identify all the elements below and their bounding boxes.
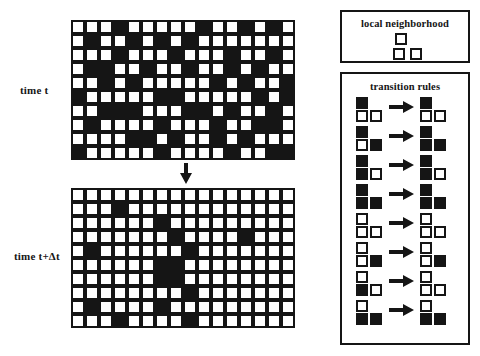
lattice-cell [169,202,183,216]
lattice-cell [127,188,141,202]
lattice-cell [141,202,155,216]
lattice-cell [183,146,197,160]
lattice-cell [155,188,169,202]
rule-cell-br [370,284,382,296]
lattice-cell [267,188,281,202]
lattice-cell [127,202,141,216]
lattice-cell [197,118,211,132]
lattice-cell [85,244,99,258]
lattice-cell [99,314,113,328]
lattice-cell [253,76,267,90]
lattice-cell [113,300,127,314]
lattice-cell [183,62,197,76]
lattice-cell [267,34,281,48]
lattice-cell [281,132,295,146]
lattice-cell [169,286,183,300]
lattice-cell [267,146,281,160]
lattice-cell [71,202,85,216]
lattice-cell [113,90,127,104]
lattice-cell [253,216,267,230]
lattice-cell [113,188,127,202]
lattice-cell [281,300,295,314]
lattice-cell [183,216,197,230]
lattice-cell [71,300,85,314]
lattice-cell [225,244,239,258]
lattice-cell [71,76,85,90]
rule-triad-rhs [420,184,450,210]
rule-triad-rhs [420,155,450,181]
lattice-cell [211,300,225,314]
lattice-cell [197,104,211,118]
lattice-cell [127,230,141,244]
lattice-cell [141,132,155,146]
rule-cell-bl [356,255,368,267]
transition-rule-row [342,241,472,270]
rule-cell-bl [356,168,368,180]
transition-rule-row [342,154,472,183]
lattice-cell [99,118,113,132]
lattice-cell [141,62,155,76]
lattice-cell [281,230,295,244]
lattice-cell [253,20,267,34]
rule-cell-top [420,97,432,109]
lattice-cell [267,20,281,34]
lattice-cell [155,300,169,314]
lattice-cell [99,146,113,160]
rule-cell-top [420,155,432,167]
right-arrow-icon [389,304,415,316]
lattice-cell [211,48,225,62]
lattice-cell [85,188,99,202]
rule-cell-bl [420,255,432,267]
rule-cell-top [420,300,432,312]
neighborhood-cell-top [395,33,407,45]
lattice-cell [281,104,295,118]
lattice-cell [225,76,239,90]
lattice-cell [211,62,225,76]
rule-triad-lhs [356,300,386,326]
lattice-cell [267,230,281,244]
rule-cell-bl [356,313,368,325]
lattice-cell [169,314,183,328]
lattice-cell [85,272,99,286]
lattice-cell [197,202,211,216]
lattice-cell [85,104,99,118]
lattice-cell [71,146,85,160]
lattice-cell [267,244,281,258]
lattice-cell [225,62,239,76]
lattice-cell [225,188,239,202]
lattice-cell [253,90,267,104]
right-arrow-icon [389,159,415,171]
rule-triad-rhs [420,213,450,239]
rule-cell-bl [420,110,432,122]
lattice-cell [183,314,197,328]
lattice-cell [253,48,267,62]
lattice-cell [211,216,225,230]
lattice-cell [141,48,155,62]
lattice-cell [169,216,183,230]
right-arrow-icon [389,101,415,113]
lattice-cell [127,90,141,104]
lattice-cell [113,104,127,118]
neighborhood-glyph [386,33,430,61]
lattice-cell [253,202,267,216]
lattice-cell [239,104,253,118]
lattice-cell [211,188,225,202]
lattice-cell [253,230,267,244]
lattice-cell [211,230,225,244]
lattice-cell [197,20,211,34]
lattice-cell [169,90,183,104]
lattice-cell [225,230,239,244]
lattice-cell [197,34,211,48]
lattice-cell [239,258,253,272]
neighborhood-cell-bottom-left [393,48,405,60]
lattice-cell [99,300,113,314]
lattice-cell [225,48,239,62]
lattice-cell [71,188,85,202]
lattice-cell [169,48,183,62]
rule-cell-bl [356,110,368,122]
lattice-cell [127,48,141,62]
rule-cell-top [420,271,432,283]
lattice-cell [85,286,99,300]
lattice-cell [239,286,253,300]
rule-triad-lhs [356,184,386,210]
